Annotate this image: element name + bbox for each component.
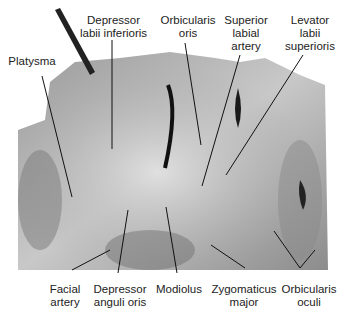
label-orbicularis-oris: Orbicularis oris — [157, 14, 219, 40]
label-line: Modiolus — [152, 283, 206, 296]
label-line: Zygomaticus — [210, 283, 278, 296]
label-line: oculi — [278, 296, 340, 309]
label-line: Depressor — [88, 283, 152, 296]
label-facial-artery: Facial artery — [42, 283, 88, 309]
label-line: Orbicularis — [278, 283, 340, 296]
label-line: major — [210, 296, 278, 309]
label-line: Platysma — [2, 55, 62, 68]
label-depressor-labii-inferioris: Depressor labii inferioris — [76, 14, 151, 40]
label-platysma: Platysma — [2, 55, 62, 68]
label-zygomaticus-major: Zygomaticus major — [210, 283, 278, 309]
label-orbicularis-oculi: Orbicularis oculi — [278, 283, 340, 309]
label-superior-labial-artery: Superior labial artery — [220, 14, 272, 53]
label-line: artery — [220, 40, 272, 53]
label-line: oris — [157, 27, 219, 40]
label-line: superioris — [282, 40, 338, 53]
label-line: labii — [282, 27, 338, 40]
label-line: Orbicularis — [157, 14, 219, 27]
label-line: labial — [220, 27, 272, 40]
label-depressor-anguli-oris: Depressor anguli oris — [88, 283, 152, 309]
label-line: labii inferioris — [76, 27, 151, 40]
label-line: Facial — [42, 283, 88, 296]
label-line: Superior — [220, 14, 272, 27]
label-levator-labii-superioris: Levator labii superioris — [282, 14, 338, 53]
label-modiolus: Modiolus — [152, 283, 206, 296]
label-line: Levator — [282, 14, 338, 27]
label-line: anguli oris — [88, 296, 152, 309]
label-line: Depressor — [76, 14, 151, 27]
label-line: artery — [42, 296, 88, 309]
